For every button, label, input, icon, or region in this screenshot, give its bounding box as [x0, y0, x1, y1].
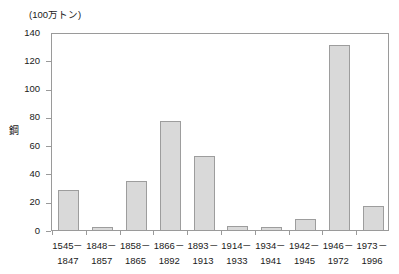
x-axis-label-line-2: 1913 — [186, 253, 220, 268]
y-axis-tick-label: 0 — [35, 225, 40, 236]
x-axis-tick-mark — [356, 230, 357, 235]
x-axis-label-line-1: 1866－ — [152, 238, 186, 253]
x-axis-label-line-2: 1972 — [321, 253, 355, 268]
x-axis-label-line-2: 1941 — [254, 253, 288, 268]
bar — [363, 206, 384, 230]
x-axis-label-line-2: 1865 — [119, 253, 153, 268]
bar — [160, 121, 181, 230]
x-axis-tick-mark — [52, 230, 53, 235]
x-axis-tick-mark — [221, 230, 222, 235]
x-axis-label-line-1: 1893－ — [186, 238, 220, 253]
x-axis-label: 1914－1933 — [220, 238, 254, 268]
x-axis-label-line-1: 1858－ — [119, 238, 153, 253]
x-axis-label-line-2: 1892 — [152, 253, 186, 268]
x-axis-label: 1545－1847 — [51, 238, 85, 268]
bar — [329, 45, 350, 230]
x-axis-tick-mark — [153, 230, 154, 235]
x-axis-label-line-1: 1914－ — [220, 238, 254, 253]
x-axis-label-line-1: 1934－ — [254, 238, 288, 253]
y-axis-tick-label: 100 — [24, 83, 40, 94]
x-axis-tick-mark — [187, 230, 188, 235]
x-axis-label: 1893－1913 — [186, 238, 220, 268]
x-axis-label: 1858－1865 — [119, 238, 153, 268]
bar — [295, 219, 316, 230]
x-axis-tick-mark — [322, 230, 323, 235]
x-axis-tick-mark — [86, 230, 87, 235]
x-axis-tick-mark — [255, 230, 256, 235]
y-axis-tick-label: 120 — [24, 55, 40, 66]
x-axis-label-line-1: 1942－ — [288, 238, 322, 253]
y-axis-unit-caption: (100万トン) — [29, 9, 81, 21]
x-axis-label-line-2: 1945 — [288, 253, 322, 268]
x-axis-label-line-1: 1973－ — [355, 238, 389, 253]
x-axis-label-line-1: 1946－ — [321, 238, 355, 253]
plot-area — [51, 33, 389, 231]
x-axis-tick-mark — [120, 230, 121, 235]
y-axis-tick-label: 40 — [29, 168, 40, 179]
y-axis-title: 鋼 — [6, 125, 18, 135]
x-axis-label-line-1: 1545－ — [51, 238, 85, 253]
bar — [126, 181, 147, 231]
x-axis-label: 1946－1972 — [321, 238, 355, 268]
bar — [92, 227, 113, 230]
y-axis-tick-label: 20 — [29, 196, 40, 207]
x-axis-label: 1942－1945 — [288, 238, 322, 268]
bar — [227, 226, 248, 230]
bar — [261, 227, 282, 230]
x-axis-label: 1866－1892 — [152, 238, 186, 268]
y-axis-tick-label: 60 — [29, 140, 40, 151]
x-axis-tick-mark — [289, 230, 290, 235]
y-axis-tick-label: 80 — [29, 111, 40, 122]
bar-chart-figure: (100万トン) 鋼 020406080100120140 1545－18471… — [0, 0, 399, 274]
x-axis-label: 1973－1996 — [355, 238, 389, 268]
x-axis-label-line-2: 1933 — [220, 253, 254, 268]
x-axis-label: 1848－1857 — [85, 238, 119, 268]
x-axis-label-line-2: 1847 — [51, 253, 85, 268]
bar — [194, 156, 215, 230]
x-axis-label-line-2: 1996 — [355, 253, 389, 268]
y-axis-tick-label: 140 — [24, 27, 40, 38]
x-axis-label-line-1: 1848－ — [85, 238, 119, 253]
y-axis-tick-mark — [46, 231, 51, 232]
bar — [58, 190, 79, 230]
x-axis-label-line-2: 1857 — [85, 253, 119, 268]
x-axis-label: 1934－1941 — [254, 238, 288, 268]
